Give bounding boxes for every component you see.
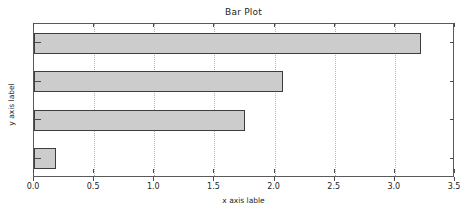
bar-b	[34, 110, 245, 131]
y-tick-mark-inner	[37, 81, 41, 82]
x-tick-mark-inner	[213, 169, 214, 173]
x-tick-mark-top	[334, 23, 335, 27]
x-tick-label: 3.5	[437, 182, 469, 191]
x-tick-label: 0.0	[16, 182, 50, 191]
x-tick-mark	[213, 177, 214, 181]
x-tick-mark-inner	[394, 169, 395, 173]
bar-d	[34, 33, 421, 54]
y-tick-mark-right	[450, 119, 454, 120]
x-tick-label: 0.5	[76, 182, 110, 191]
x-tick-mark-top	[93, 23, 94, 27]
y-tick-mark-inner	[37, 42, 41, 43]
x-tick-mark-inner	[93, 169, 94, 173]
chart-title: Bar Plot	[33, 7, 454, 17]
y-tick-mark-right	[450, 42, 454, 43]
x-tick-mark	[394, 177, 395, 181]
x-tick-mark-inner	[334, 169, 335, 173]
y-tick-mark-right	[450, 158, 454, 159]
x-tick-mark	[334, 177, 335, 181]
x-axis-label: x axis lable	[33, 196, 454, 205]
x-tick-mark	[274, 177, 275, 181]
x-tick-mark-top	[213, 23, 214, 27]
x-tick-label: 1.5	[196, 182, 230, 191]
x-tick-mark-top	[33, 23, 34, 27]
y-tick-mark-inner	[37, 158, 41, 159]
bar-chart-figure: Bar Plot 0.00.51.01.52.02.53.03.5 ABCD x…	[0, 0, 469, 213]
x-tick-label: 2.0	[257, 182, 291, 191]
x-tick-mark-top	[454, 23, 455, 27]
x-tick-label: 1.0	[136, 182, 170, 191]
bar-c	[34, 71, 283, 92]
x-tick-mark-inner	[454, 169, 455, 173]
x-tick-mark-inner	[274, 169, 275, 173]
x-tick-mark-top	[274, 23, 275, 27]
x-tick-mark-top	[394, 23, 395, 27]
x-tick-label: 2.5	[317, 182, 351, 191]
x-tick-mark	[33, 177, 34, 181]
y-axis-label: y axis label	[7, 65, 16, 145]
x-tick-mark-inner	[153, 169, 154, 173]
plot-area	[33, 23, 454, 177]
x-tick-mark-top	[153, 23, 154, 27]
y-tick-mark-right	[450, 81, 454, 82]
y-tick-mark-inner	[37, 119, 41, 120]
x-tick-label: 3.0	[377, 182, 411, 191]
x-tick-mark	[93, 177, 94, 181]
x-tick-mark-inner	[33, 169, 34, 173]
x-tick-mark	[454, 177, 455, 181]
x-tick-mark	[153, 177, 154, 181]
